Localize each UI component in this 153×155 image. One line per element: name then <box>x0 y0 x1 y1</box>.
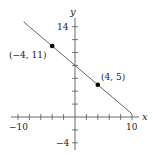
point2-label: (4, 5) <box>101 72 125 82</box>
x-min-label: −10 <box>9 122 28 132</box>
point1-label: (−4, 11) <box>9 50 46 60</box>
point-4-5 <box>96 83 101 88</box>
chart: y x 14 −4 −10 10 (−4, 11) (4, 5) <box>0 0 153 155</box>
y-axis-label: y <box>69 6 76 17</box>
x-axis-label: x <box>142 111 148 122</box>
y-max-label: 14 <box>57 22 69 32</box>
point-neg4-11 <box>50 44 55 49</box>
y-min-label: −4 <box>56 138 70 148</box>
plotted-line <box>24 22 132 114</box>
x-max-label: 10 <box>126 122 138 132</box>
